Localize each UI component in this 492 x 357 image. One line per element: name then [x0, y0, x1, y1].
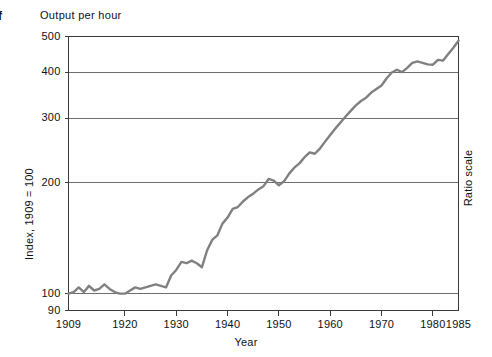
y-tick-label: 400	[17, 65, 61, 77]
data-series-line	[69, 41, 459, 294]
y-tick-label: 500	[17, 30, 61, 42]
y-tick-label: 300	[17, 111, 61, 123]
y-tick-label: 100	[17, 287, 61, 299]
chart-figure: f Output per hour Index, 1909 = 100 Rati…	[0, 0, 492, 357]
plot-frame	[69, 37, 459, 311]
y-tick-label: 90	[17, 304, 61, 316]
x-tick-label: 1985	[429, 318, 489, 330]
chart-plot-area	[0, 0, 492, 357]
x-tick-label: 1909	[39, 318, 99, 330]
gridlines	[69, 37, 459, 294]
x-tick-marks	[125, 311, 433, 316]
y-tick-label: 200	[17, 176, 61, 188]
